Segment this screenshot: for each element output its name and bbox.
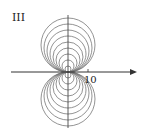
panel-label: III: [12, 11, 25, 24]
x-axis-arrow-icon: [130, 69, 137, 75]
x-tick-label: 10: [84, 74, 97, 85]
